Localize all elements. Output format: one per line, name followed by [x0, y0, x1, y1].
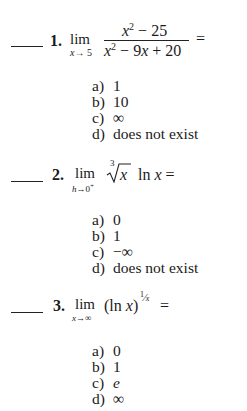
power-base: (ln x) — [104, 297, 138, 315]
log-fn: ln — [138, 166, 150, 183]
choice-value: −∞ — [113, 243, 133, 260]
arrow-icon: → — [76, 313, 85, 323]
choice-value: does not exist — [113, 259, 198, 276]
limit-target: ∞ — [85, 313, 91, 323]
limit-subscript: x→∞ — [72, 313, 91, 323]
fraction-denominator: x2 − 9x + 20 — [104, 41, 181, 60]
choice-label: c) — [92, 375, 113, 390]
choice-label: b) — [92, 228, 113, 243]
choice-b[interactable]: b)1 — [92, 228, 121, 243]
choice-value: 1 — [113, 227, 121, 244]
equals-sign: = — [166, 166, 175, 183]
choice-label: a) — [92, 343, 113, 358]
limit-subscript: x→ 5 — [70, 47, 92, 58]
log-arg: x — [154, 166, 161, 183]
question-number: 3. — [53, 297, 65, 315]
arrow-icon: → — [77, 184, 86, 194]
choice-a[interactable]: a)0 — [92, 212, 121, 227]
equals-sign: = — [196, 30, 205, 48]
choice-b[interactable]: b)10 — [92, 94, 129, 109]
choice-label: b) — [92, 94, 113, 109]
choice-c[interactable]: c)−∞ — [92, 244, 133, 259]
choice-label: c) — [92, 110, 113, 125]
choice-d[interactable]: d)∞ — [92, 391, 124, 406]
choice-value: ∞ — [113, 390, 124, 407]
choice-value: ∞ — [113, 109, 124, 126]
log-arg: x — [126, 297, 133, 314]
question-number: 1. — [50, 32, 62, 50]
limit-subscript: h→0+ — [72, 182, 94, 194]
question-number: 2. — [52, 166, 64, 184]
limit-word: lim — [75, 165, 95, 182]
fraction-numerator: x2 − 25 — [122, 21, 167, 40]
choice-label: a) — [92, 78, 113, 93]
choice-d[interactable]: d)does not exist — [92, 260, 198, 275]
limit-word: lim — [75, 296, 95, 313]
log-expression: ln x = — [138, 166, 175, 184]
limit-target: 5 — [87, 47, 92, 58]
equals-sign: = — [160, 297, 169, 315]
choice-label: d) — [92, 391, 113, 406]
choice-value: does not exist — [113, 125, 198, 142]
side-marker: + — [90, 182, 94, 190]
radicand: x — [120, 166, 127, 184]
arrow-icon: → — [74, 47, 84, 58]
choice-label: a) — [92, 212, 113, 227]
answer-blank-3[interactable] — [11, 312, 43, 313]
power-exponent: 1⁄x — [140, 290, 149, 303]
limit-word: lim — [70, 31, 90, 48]
choice-value: 0 — [113, 342, 121, 359]
log-fn: ln — [109, 297, 121, 314]
term: − 25 — [134, 22, 167, 39]
choice-value: 10 — [113, 93, 129, 110]
choice-label: c) — [92, 244, 113, 259]
choice-c[interactable]: c)∞ — [92, 110, 124, 125]
choice-label: d) — [92, 260, 113, 275]
paren-close: ) — [133, 297, 138, 314]
term: − 9 — [116, 42, 141, 59]
choice-c[interactable]: c)e — [92, 375, 120, 390]
choice-value: 1 — [113, 358, 121, 375]
choice-value: e — [113, 374, 120, 391]
radical-icon — [106, 163, 132, 183]
choice-a[interactable]: a)1 — [92, 78, 121, 93]
choice-label: b) — [92, 359, 113, 374]
answer-blank-1[interactable] — [11, 46, 43, 47]
exp-den: x — [146, 294, 150, 303]
choice-b[interactable]: b)1 — [92, 359, 121, 374]
answer-blank-2[interactable] — [11, 181, 43, 182]
term: + 20 — [148, 42, 181, 59]
choice-d[interactable]: d)does not exist — [92, 126, 198, 141]
choice-value: 1 — [113, 77, 121, 94]
choice-value: 0 — [113, 211, 121, 228]
choice-label: d) — [92, 126, 113, 141]
choice-a[interactable]: a)0 — [92, 343, 121, 358]
